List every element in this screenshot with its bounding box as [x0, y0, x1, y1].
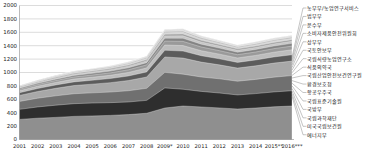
- x-axis-tick-label: 2008: [140, 143, 153, 149]
- legend-item-label[interactable]: 국방부: [307, 106, 322, 113]
- legend-leader-line: [292, 76, 307, 78]
- legend-item-label[interactable]: 환경보호청: [307, 81, 332, 87]
- y-axis-tick-label: 1000: [3, 69, 17, 75]
- legend-item-label[interactable]: 상무부: [307, 39, 322, 46]
- legend-item-label[interactable]: 항공우주국: [307, 89, 332, 96]
- x-axis-tick-label: 2007: [122, 143, 135, 149]
- y-axis-tick-label: 1400: [3, 43, 17, 49]
- x-axis-tick-label: 2005: [86, 143, 99, 149]
- legend-item-label[interactable]: 국립산업안전보건연구원: [307, 72, 362, 79]
- legend-leader-line: [292, 83, 307, 92]
- legend-leader-line: [292, 86, 307, 101]
- legend-item-label[interactable]: 국토안보부: [307, 47, 332, 54]
- y-axis-tick-label: 0: [14, 136, 18, 142]
- legend-leader-lines: [292, 8, 307, 135]
- legend-item-label[interactable]: 운수부: [307, 22, 322, 29]
- x-axis-tick-label: 2001: [13, 143, 26, 149]
- x-axis-tick-label: 2006: [104, 143, 117, 149]
- stacked-area-chart: 0200400600800100012001400160018002000 20…: [0, 0, 389, 163]
- legend: 농무부/농업연구서비스법무부운수부소비자제품안전위원회상무부국토안보부국립식량농…: [307, 5, 362, 139]
- x-axis-tick-label: 2004: [67, 143, 81, 149]
- legend-item-label[interactable]: 국립과학재단: [307, 115, 337, 122]
- legend-item-label[interactable]: 국립표준기술원: [307, 98, 342, 105]
- x-axis-tick-label: 2002: [31, 143, 44, 149]
- area-series-group: [20, 29, 293, 140]
- y-axis-tick-label: 1600: [3, 29, 17, 35]
- chart-screenshot: 0200400600800100012001400160018002000 20…: [0, 0, 389, 163]
- x-axis-tick-label: 2013: [231, 143, 244, 149]
- y-axis-tick-label: 1200: [3, 56, 17, 62]
- legend-item-label[interactable]: 농무부/농업연구서비스: [307, 5, 359, 12]
- x-axis-tick-label: 2016***: [282, 143, 303, 149]
- x-axis-tick-label: 2012: [213, 143, 226, 149]
- legend-item-label[interactable]: 에너지부: [307, 132, 327, 139]
- x-axis-tick-label: 2009*: [157, 143, 173, 149]
- legend-item-label[interactable]: 국립식량농업연구소: [307, 56, 352, 63]
- legend-item-label[interactable]: 법무부: [307, 13, 322, 20]
- legend-leader-line: [292, 81, 307, 84]
- legend-leader-line: [292, 8, 307, 57]
- x-axis-tick-label: 2014: [249, 143, 263, 149]
- y-axis-tick-label: 2000: [3, 2, 17, 8]
- legend-leader-line: [292, 59, 307, 73]
- y-axis-tick-label: 600: [7, 96, 18, 102]
- chart-svg: 0200400600800100012001400160018002000 20…: [0, 0, 389, 163]
- y-axis-tick-label: 800: [7, 83, 18, 89]
- legend-item-label[interactable]: 소비자제품안전위원회: [307, 30, 357, 37]
- y-axis-tick-label: 200: [7, 123, 18, 129]
- legend-leader-line: [292, 67, 307, 75]
- x-axis: 200120022003200420052006200720082009*201…: [13, 143, 303, 149]
- legend-item-label[interactable]: 미국국립보건원: [307, 123, 342, 130]
- y-axis-tick-label: 400: [7, 110, 18, 116]
- x-axis-tick-label: 2003: [49, 143, 62, 149]
- legend-leader-line: [292, 88, 307, 109]
- x-axis-tick-label: 2011: [195, 143, 208, 149]
- legend-item-label[interactable]: 식품의약국: [307, 64, 332, 71]
- y-axis-tick-label: 1800: [3, 16, 17, 22]
- x-axis-tick-label: 2010: [176, 143, 189, 149]
